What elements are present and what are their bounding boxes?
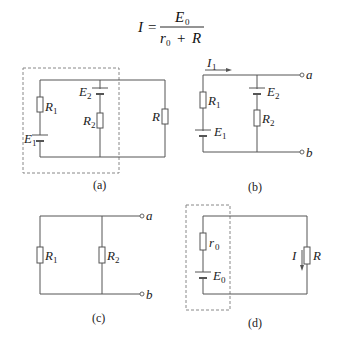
svg-text:2: 2: [115, 255, 120, 265]
label-e0: E: [212, 268, 221, 283]
label-e2: E: [78, 84, 87, 99]
formula-lhs: I: [137, 19, 144, 35]
formula-denominator-a-sub: 0: [166, 38, 171, 48]
label-i: I: [291, 248, 297, 263]
label-e1: E: [23, 131, 32, 146]
resistor-r: [162, 109, 168, 124]
caption-b: (b): [248, 180, 262, 194]
diagram-d: r 0 E 0 I R (d): [186, 205, 321, 330]
diagram-c: R 1 R 2 a b (c): [37, 208, 153, 325]
label-r1: R: [207, 93, 216, 108]
resistor-r2: [254, 110, 260, 126]
svg-text:1: 1: [32, 138, 37, 148]
svg-text:1: 1: [216, 100, 221, 110]
label-r2: R: [106, 248, 115, 263]
label-b: b: [306, 145, 313, 160]
caption-d: (d): [248, 316, 262, 330]
resistor-r1: [37, 247, 43, 263]
label-r1: R: [44, 99, 53, 114]
formula-numerator: E: [174, 9, 184, 25]
arrow-head-icon: [300, 265, 304, 271]
resistor-r: [304, 247, 310, 264]
caption-c: (c): [92, 311, 105, 325]
terminal-b: [140, 292, 144, 296]
svg-text:0: 0: [221, 275, 226, 285]
arrow-head-icon: [226, 68, 232, 72]
label-a: a: [146, 208, 153, 223]
label-e2: E: [266, 84, 275, 99]
svg-text:2: 2: [91, 120, 96, 130]
resistor-r1: [200, 92, 206, 108]
formula-denominator-b: R: [191, 30, 201, 46]
label-r2: R: [82, 113, 91, 128]
caption-a: (a): [93, 178, 106, 192]
label-e1: E: [213, 124, 222, 139]
formula-numerator-sub: 0: [185, 17, 190, 27]
resistor-r2: [97, 113, 103, 128]
svg-text:1: 1: [53, 106, 58, 116]
label-r2: R: [261, 111, 270, 126]
svg-text:2: 2: [87, 91, 92, 101]
label-r: R: [151, 109, 160, 124]
label-b: b: [146, 287, 153, 302]
formula: I = E 0 r 0 + R: [137, 9, 204, 48]
resistor-r2: [99, 247, 105, 263]
svg-text:0: 0: [215, 242, 220, 252]
label-r: R: [312, 248, 321, 263]
svg-text:1: 1: [222, 131, 227, 141]
svg-text:2: 2: [275, 91, 280, 101]
terminal-a: [140, 214, 144, 218]
svg-text:1: 1: [53, 255, 58, 265]
formula-equals: =: [148, 19, 156, 35]
diagram-b: I 1 R 1 E 1 E 2 R 2 a b (b): [195, 55, 313, 194]
wire-loop: [203, 75, 300, 152]
resistor-r0: [200, 233, 206, 250]
resistor-r1: [37, 97, 43, 112]
terminal-a: [300, 73, 304, 77]
circuit-figure: I = E 0 r 0 + R R 1 E 1 E 2 R: [0, 0, 339, 342]
formula-plus: +: [177, 30, 185, 46]
diagram-a: R 1 E 1 E 2 R 2 R (a): [23, 68, 168, 192]
svg-text:1: 1: [212, 62, 217, 72]
label-a: a: [306, 67, 313, 82]
label-r1: R: [44, 248, 53, 263]
svg-text:2: 2: [270, 118, 275, 128]
terminal-b: [300, 150, 304, 154]
